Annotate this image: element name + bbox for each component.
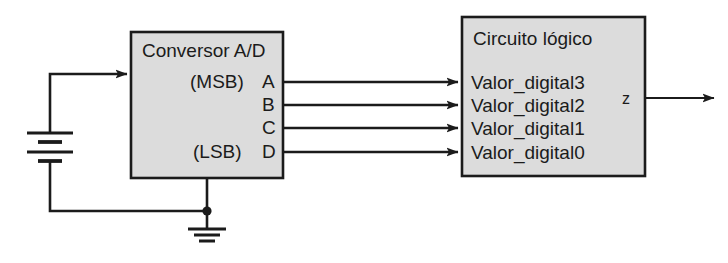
diagram-canvas: Conversor A/D (MSB) A B C (LSB) D Circui… (0, 0, 728, 263)
junction-dot (202, 206, 211, 215)
ground-connection (188, 178, 226, 241)
logic-input-valor-digital0: Valor_digital0 (471, 143, 585, 162)
adc-port-qualifier-lsb: (LSB) (193, 142, 242, 161)
adc-port-b: B (262, 95, 275, 114)
analog-input-wire (50, 74, 127, 133)
logic-input-valor-digital1: Valor_digital1 (471, 119, 585, 138)
logic-input-valor-digital2: Valor_digital2 (471, 96, 585, 115)
adc-port-a: A (262, 72, 275, 91)
logic-block-title: Circuito lógico (473, 29, 592, 48)
adc-block-title: Conversor A/D (142, 41, 266, 60)
adc-port-d: D (262, 142, 276, 161)
logic-output-z: z (622, 91, 630, 107)
adc-port-c: C (262, 118, 276, 137)
adc-port-qualifier-msb: (MSB) (190, 72, 244, 91)
logic-input-valor-digital3: Valor_digital3 (471, 73, 585, 92)
diagram-graphics (0, 0, 728, 263)
digital-bus (283, 82, 458, 152)
